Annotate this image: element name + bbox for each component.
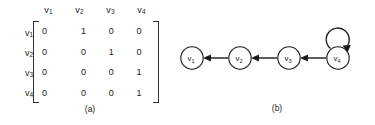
- table-row: 0 0 0 1: [39, 62, 153, 83]
- column-header-v1-text: v1: [44, 5, 53, 15]
- matrix-cell-r4c2: 0: [70, 88, 98, 98]
- matrix-column-headers: v1 v2 v3 v4: [33, 4, 157, 18]
- matrix-cell-r1c3: 0: [98, 26, 126, 36]
- column-header-v3-text: v3: [106, 5, 115, 15]
- node-v1: v1: [181, 47, 203, 69]
- row-label-v2-text: v2: [25, 48, 33, 58]
- caption-panel-b: (b): [247, 103, 307, 113]
- row-label-v2: v2: [18, 43, 33, 63]
- edge-v2-v1: [203, 54, 228, 61]
- caption-panel-a: (a): [60, 104, 120, 114]
- node-v3: v3: [278, 47, 300, 69]
- row-label-v1: v1: [18, 23, 33, 43]
- matrix-cell-r4c4: 1: [125, 88, 153, 98]
- matrix-cell-r3c2: 0: [70, 67, 98, 77]
- matrix-cell-r3c4: 1: [125, 67, 153, 77]
- matrix-cell-r2c4: 0: [125, 47, 153, 57]
- matrix-cell-r4c3: 0: [98, 88, 126, 98]
- node-v1-sub: 1: [191, 58, 194, 64]
- arrowhead-v3-v2: [251, 54, 259, 61]
- edge-v4-v3: [300, 54, 326, 61]
- table-row: 0 1 0 0: [39, 21, 153, 42]
- node-v3-sub: 3: [288, 58, 291, 64]
- figure-adjacency-matrix-and-digraph: v1 v2 v3 v4 v1 v2 v3 v4 0 1 0: [0, 0, 375, 125]
- node-v4: v4: [327, 47, 349, 69]
- matrix-cell-r2c1: 0: [39, 47, 70, 57]
- table-row: 0 0 1 0: [39, 42, 153, 63]
- row-label-v3-text: v3: [25, 68, 33, 78]
- matrix-cell-r1c4: 0: [125, 26, 153, 36]
- matrix-right-bracket: [153, 21, 159, 103]
- arrowhead-v2-v1: [203, 54, 211, 61]
- matrix-cell-r2c3: 1: [98, 47, 126, 57]
- column-header-v4: v4: [126, 4, 157, 18]
- column-header-v3: v3: [95, 4, 126, 18]
- row-label-v4: v4: [18, 83, 33, 103]
- matrix-cell-r1c2: 1: [70, 26, 98, 36]
- matrix-cell-r2c2: 0: [70, 47, 98, 57]
- column-header-v2: v2: [64, 4, 95, 18]
- matrix-grid: 0 1 0 0 0 0 1 0 0 0 0 1: [39, 21, 153, 103]
- matrix-cell-r4c1: 0: [39, 88, 70, 98]
- table-row: 0 0 0 1: [39, 83, 153, 104]
- node-v2-sub: 2: [239, 58, 242, 64]
- row-label-v4-text: v4: [25, 88, 33, 98]
- node-v4-sub: 4: [337, 58, 340, 64]
- row-label-v3: v3: [18, 63, 33, 83]
- row-label-v1-text: v1: [25, 28, 33, 38]
- matrix-cell-r3c3: 0: [98, 67, 126, 77]
- column-header-v2-text: v2: [75, 5, 84, 15]
- node-v2: v2: [229, 47, 251, 69]
- edge-v3-v2: [251, 54, 277, 61]
- column-header-v1: v1: [33, 4, 64, 18]
- matrix-row-labels: v1 v2 v3 v4: [18, 23, 33, 103]
- matrix-brackets: 0 1 0 0 0 0 1 0 0 0 0 1: [33, 21, 159, 103]
- matrix-cell-r1c1: 0: [39, 26, 70, 36]
- arrowhead-v4-v3: [300, 54, 308, 61]
- matrix-cell-r3c1: 0: [39, 67, 70, 77]
- column-header-v4-text: v4: [137, 5, 146, 15]
